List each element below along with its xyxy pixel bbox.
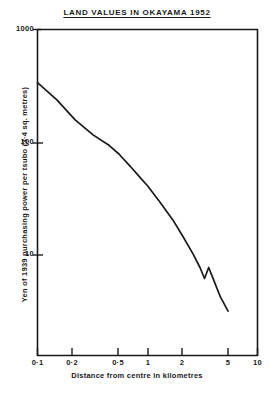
y-tick-label-1000: 1000 xyxy=(0,24,34,34)
chart-figure: LAND VALUES IN OKAYAMA 1952 1 xyxy=(0,0,274,399)
x-tick-label-2: 2 xyxy=(162,358,202,369)
x-tick-text: 0·2 xyxy=(52,358,92,367)
y-tick-text: 1000 xyxy=(16,24,34,33)
x-tick-text: 2 xyxy=(162,358,202,367)
y-tick-label-100: 100 xyxy=(0,137,34,147)
x-tick-label-0.2: 0·2 xyxy=(52,358,92,369)
plot-area xyxy=(0,0,274,399)
x-tick-text: 10 xyxy=(238,358,275,367)
y-axis-title: Yen of 1939 purchasing power per tsubo (… xyxy=(20,75,29,315)
x-tick-label-10: 10 xyxy=(238,358,275,369)
x-axis-title: Distance from centre in kilometres xyxy=(0,371,274,380)
data-series-line xyxy=(38,83,229,311)
y-tick-label-10: 10 xyxy=(0,249,34,259)
